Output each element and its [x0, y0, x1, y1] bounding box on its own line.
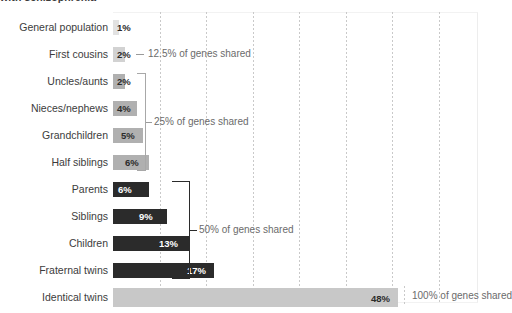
row-label: General population	[0, 14, 108, 41]
row-label: Fraternal twins	[0, 257, 108, 284]
bar-value: 5%	[121, 128, 135, 143]
annotation-25: 25% of genes shared	[154, 116, 249, 127]
chart-row: Fraternal twins 17%	[0, 257, 496, 284]
row-label: Parents	[0, 176, 108, 203]
annotation-bracket-50	[172, 181, 190, 279]
row-label: Siblings	[0, 203, 108, 230]
bar-value: 2%	[117, 47, 131, 62]
row-label: Uncles/aunts	[0, 68, 108, 95]
bar-value: 6%	[118, 182, 132, 197]
chart-row: Half siblings 6%	[0, 149, 496, 176]
bar-value: 2%	[117, 74, 131, 89]
bar-value: 1%	[117, 20, 131, 35]
annotation-dash	[146, 122, 152, 123]
chart-title: with schizophrenia	[0, 0, 240, 3]
bar-value: 4%	[117, 101, 131, 116]
chart-row: General population 1%	[0, 14, 496, 41]
annotation-dash	[136, 54, 144, 55]
row-label: Grandchildren	[0, 122, 108, 149]
chart-row: Uncles/aunts 2%	[0, 68, 496, 95]
annotation-50: 50% of genes shared	[199, 224, 294, 235]
row-label: Nieces/nephews	[0, 95, 108, 122]
annotation-dash	[190, 230, 197, 231]
row-label: First cousins	[0, 41, 108, 68]
annotation-12-5: 12.5% of genes shared	[148, 48, 251, 59]
bar	[113, 288, 398, 307]
bar-value: 48%	[371, 291, 390, 306]
chart-row: Parents 6%	[0, 176, 496, 203]
row-label: Children	[0, 230, 108, 257]
annotation-bracket-25	[137, 73, 146, 171]
row-label: Half siblings	[0, 149, 108, 176]
row-label: Identical twins	[0, 284, 108, 311]
annotation-100: 100% of genes shared	[412, 290, 512, 301]
bar-value: 9%	[139, 209, 153, 224]
annotation-tick-100	[404, 286, 405, 306]
